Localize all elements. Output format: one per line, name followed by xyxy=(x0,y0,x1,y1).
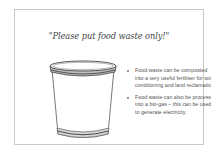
bullet-dot-icon xyxy=(127,70,129,72)
bullet-item: Food waste can be composted into a very … xyxy=(125,67,211,90)
bullet-list: Food waste can be composted into a very … xyxy=(125,67,211,121)
bullet-item: Food waste can also be processed into a … xyxy=(125,94,211,117)
bullet-dot-icon xyxy=(127,97,129,99)
bullet-text: Food waste can also be processed into a … xyxy=(135,94,211,115)
bucket-icon xyxy=(48,60,118,144)
slide-frame: "Please put food waste only!" Food waste… xyxy=(14,9,204,145)
slide-title: "Please put food waste only!" xyxy=(15,31,203,41)
bullet-text: Food waste can be composted into a very … xyxy=(135,67,211,88)
